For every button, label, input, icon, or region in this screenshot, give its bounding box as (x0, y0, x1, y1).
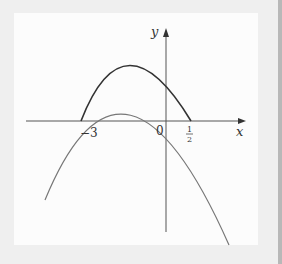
parabola-curve (45, 114, 229, 245)
parabola-chart: y x 0 −3 1 2 (0, 0, 282, 264)
y-axis-arrow-icon (163, 28, 169, 37)
origin-label: 0 (156, 124, 164, 138)
y-axis-label: y (150, 24, 159, 39)
tick-label-half-numerator: 1 (187, 125, 192, 134)
parabola-upper-arc (81, 66, 191, 122)
tick-label-half-denominator: 2 (187, 135, 192, 144)
x-axis-label: x (236, 124, 244, 139)
tick-label-neg3: −3 (80, 126, 98, 140)
